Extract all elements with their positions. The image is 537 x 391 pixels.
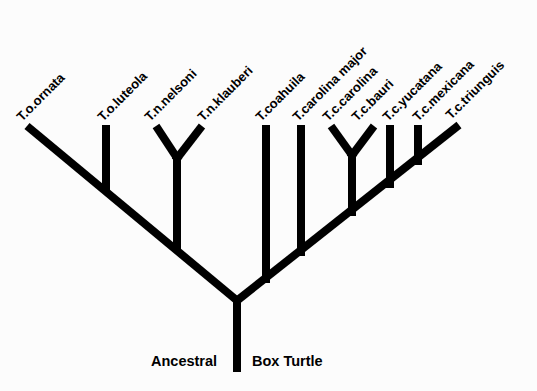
taxon-label-o-ornata: T.o.ornata	[14, 70, 69, 125]
root-label-ancestral: Ancestral	[151, 353, 217, 369]
branch-ornata-main	[27, 126, 240, 303]
taxon-label-n-klauberi: T.n.klauberi	[195, 63, 256, 124]
taxon-label-n-nelsoni: T.n.nelsoni	[142, 66, 200, 124]
taxon-label-o-luteola: T.o.luteola	[95, 68, 151, 124]
root-label-box-turtle: Box Turtle	[252, 353, 323, 369]
branch-c-bauri	[350, 126, 374, 158]
phylogenetic-tree: T.o.ornata T.o.luteola T.n.nelsoni T.n.k…	[0, 0, 537, 391]
branch-klauberi	[175, 126, 202, 161]
